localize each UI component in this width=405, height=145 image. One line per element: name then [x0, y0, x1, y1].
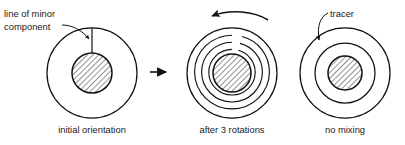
minor-component-label-line1: line of minor [4, 8, 55, 19]
panel-initial-orientation [47, 28, 137, 118]
hatched-core-initial [72, 53, 112, 93]
panel-after-3-rotations [187, 12, 277, 118]
tracer-annotation: tracer [318, 8, 354, 40]
tracer-label: tracer [330, 8, 354, 19]
hatched-core-nomixing [328, 56, 362, 90]
rotation-direction-arrow [212, 12, 268, 20]
caption-initial-orientation: initial orientation [58, 124, 126, 135]
minor-component-annotation: line of minor component [4, 8, 89, 39]
hatched-core-rotated [213, 54, 251, 92]
figure-canvas: line of minor component initial orientat… [0, 0, 405, 145]
caption-after-3-rotations: after 3 rotations [199, 124, 264, 135]
panel-no-mixing [300, 28, 390, 118]
caption-no-mixing: no mixing [325, 124, 365, 135]
mixing-diagram: line of minor component initial orientat… [0, 0, 405, 145]
minor-component-label-line2: component [4, 21, 51, 32]
